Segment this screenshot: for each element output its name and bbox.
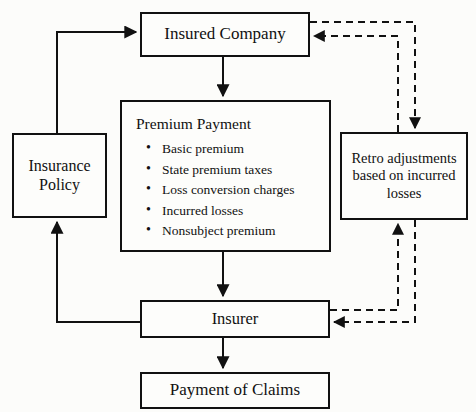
- node-premium-payment: Premium Payment Basic premium State prem…: [120, 100, 331, 252]
- node-retro-adjustments-label: Retro adjustments based on incurred loss…: [351, 150, 456, 201]
- node-insurance-policy: Insurance Policy: [12, 133, 107, 218]
- node-insurer: Insurer: [140, 300, 330, 338]
- flow-diagram-canvas: Insured Company Premium Payment Basic pr…: [0, 0, 476, 412]
- list-item: Incurred losses: [146, 203, 294, 219]
- node-insured-company-label: Insured Company: [164, 24, 285, 44]
- connector-retro-to-insurer: [334, 220, 415, 322]
- list-item: Nonsubject premium: [146, 223, 294, 239]
- node-retro-adjustments: Retro adjustments based on incurred loss…: [340, 132, 468, 220]
- connector-insurer-to-retro: [330, 224, 398, 310]
- node-insured-company: Insured Company: [140, 12, 310, 57]
- node-insurer-label: Insurer: [212, 309, 259, 328]
- list-item: Loss conversion charges: [146, 182, 294, 198]
- list-item: State premium taxes: [146, 162, 294, 178]
- list-item: Basic premium: [146, 141, 294, 157]
- premium-payment-item-list: Basic premium State premium taxes Loss c…: [136, 141, 294, 243]
- node-premium-payment-label: Premium Payment: [136, 115, 251, 133]
- node-payment-of-claims: Payment of Claims: [140, 372, 330, 409]
- node-payment-of-claims-label: Payment of Claims: [170, 380, 300, 400]
- node-insurance-policy-label: Insurance Policy: [28, 157, 90, 195]
